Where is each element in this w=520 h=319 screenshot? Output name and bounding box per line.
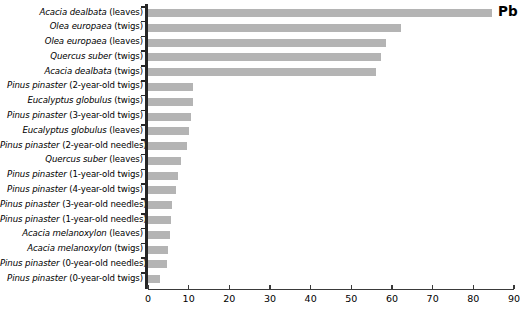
plant-part: (leaves) [107,7,143,17]
category-label: Acacia melanoxylon (twigs) [0,243,143,253]
x-axis-tick [229,285,230,290]
x-axis-tick-label: 40 [305,293,317,304]
bar [148,68,376,76]
species-name: Pinus pinaster [7,273,67,283]
y-axis-tick [141,243,146,245]
series-label-pb: Pb [498,3,518,19]
plant-part: (0-year-old twigs) [67,273,143,283]
y-axis-tick [141,124,146,126]
species-name: Acacia melanoxylon [22,228,106,238]
category-label: Pinus pinaster (3-year-old needles) [0,199,143,209]
x-axis-tick-label: 20 [223,293,235,304]
x-axis-tick-label: 70 [427,293,439,304]
category-label: Pinus pinaster (4-year-old twigs) [0,184,143,194]
bar [148,127,189,135]
x-axis-tick [391,285,392,290]
category-label: Quercus suber (leaves) [0,154,143,164]
species-name: Pinus pinaster [7,184,67,194]
plant-part: (leaves) [107,228,143,238]
y-axis-tick [141,154,146,156]
category-label: Pinus pinaster (1-year-old needles) [0,214,143,224]
category-label: Pinus pinaster (2-year-old needles) [0,140,143,150]
x-axis-line [148,289,514,290]
bar [148,113,191,121]
bar [148,142,187,150]
x-axis-tick-label: 0 [145,293,151,304]
category-label: Pinus pinaster (2-year-old twigs) [0,80,143,90]
x-axis-tick [432,285,433,290]
y-axis-line [145,4,148,289]
plant-part: (leaves) [107,36,143,46]
category-axis-labels: Acacia dealbata (leaves)Olea europaea (t… [0,6,143,287]
bar [148,260,167,268]
y-axis-tick [141,257,146,259]
y-axis-tick [141,198,146,200]
species-name: Eucalyptus globulus [22,125,106,135]
species-name: Eucalyptus globulus [27,95,111,105]
y-axis-tick [141,65,146,67]
x-axis-tick-label: 60 [386,293,398,304]
bar [148,172,178,180]
bar [148,39,386,47]
plot-area [148,6,514,287]
plant-part: (twigs) [112,243,143,253]
y-axis-tick [141,80,146,82]
bar [148,275,160,283]
plant-part: (4-year-old twigs) [67,184,143,194]
category-label: Acacia melanoxylon (leaves) [0,228,143,238]
bar [148,201,172,209]
species-name: Quercus suber [45,154,106,164]
y-axis-tick [141,228,146,230]
plant-part: (1-year-old needles) [60,214,147,224]
bar [148,157,181,165]
species-name: Acacia dealbata [44,66,111,76]
category-label: Quercus suber (twigs) [0,51,143,61]
y-axis-tick [141,213,146,215]
plant-part: (twigs) [112,95,143,105]
category-label: Acacia dealbata (twigs) [0,66,143,76]
bar [148,246,168,254]
bar [148,83,193,91]
x-axis-tick-label: 10 [183,293,195,304]
bar [148,231,170,239]
y-axis-tick [141,183,146,185]
bar [148,98,193,106]
y-axis-tick [141,272,146,274]
plant-part: (twigs) [112,21,143,31]
species-name: Olea europaea [45,36,107,46]
y-axis-tick [141,169,146,171]
y-axis-tick [141,139,146,141]
category-label: Acacia dealbata (leaves) [0,7,143,17]
species-name: Pinus pinaster [0,140,60,150]
species-name: Acacia melanoxylon [27,243,111,253]
x-axis-tick [351,285,352,290]
bar [148,9,492,17]
species-name: Olea europaea [50,21,112,31]
category-label: Eucalyptus globulus (leaves) [0,125,143,135]
species-name: Pinus pinaster [7,110,67,120]
x-axis-tick [188,285,189,290]
category-label: Pinus pinaster (0-year-old needles) [0,258,143,268]
category-label: Pinus pinaster (1-year-old twigs) [0,169,143,179]
category-label: Olea europaea (leaves) [0,36,143,46]
plant-part: (leaves) [107,154,143,164]
bar [148,186,176,194]
bar [148,24,401,32]
x-axis-tick [473,285,474,290]
y-axis-tick [141,50,146,52]
category-label: Pinus pinaster (3-year-old twigs) [0,110,143,120]
species-name: Acacia dealbata [39,7,106,17]
category-label: Olea europaea (twigs) [0,21,143,31]
x-axis-tick [513,285,514,290]
x-axis-tick [269,285,270,290]
plant-part: (3-year-old twigs) [67,110,143,120]
plant-part: (twigs) [112,51,143,61]
bar [148,53,381,61]
plant-part: (1-year-old twigs) [67,169,143,179]
plant-part: (leaves) [107,125,143,135]
species-name: Pinus pinaster [7,169,67,179]
bar [148,216,171,224]
species-name: Pinus pinaster [0,214,60,224]
x-axis-tick [147,285,148,290]
